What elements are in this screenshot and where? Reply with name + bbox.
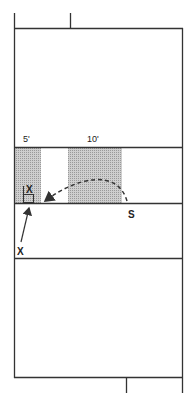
five-foot-label: 5' bbox=[23, 134, 30, 144]
ten-foot-label: 10' bbox=[87, 134, 99, 144]
court-diagram: 5' 10' X S X bbox=[0, 0, 193, 410]
player-x-near-net: X bbox=[26, 184, 33, 195]
player-movement-arrow bbox=[21, 208, 29, 242]
server-label: S bbox=[128, 209, 135, 220]
player-x-outside: X bbox=[17, 246, 24, 257]
ten-foot-zone bbox=[68, 148, 122, 203]
